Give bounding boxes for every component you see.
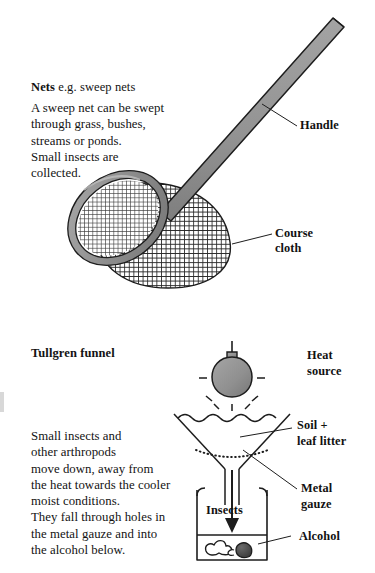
label-soil-line2: leaf litter: [297, 434, 346, 450]
heat-source-bulb: [199, 341, 265, 411]
label-metal-gauze-line2: gauze: [301, 497, 332, 513]
figure-canvas: Nets e.g. sweep nets A sweep net can be …: [0, 0, 375, 573]
label-heat-source-line2: source: [307, 364, 342, 380]
soil-surface-wave: [178, 415, 276, 422]
label-insects: Insects: [206, 503, 243, 519]
metal-gauze-dotted-arc: [196, 450, 268, 457]
tullgren-heading: Tullgren funnel: [31, 345, 115, 361]
gauze-leader-line: [243, 450, 297, 489]
alcohol-leader-line: [258, 536, 291, 544]
label-soil-line1: Soil +: [297, 418, 328, 434]
beetle-shape: [236, 543, 252, 558]
soil-leader-line: [240, 428, 292, 437]
label-metal-gauze-line1: Metal: [301, 481, 332, 497]
label-alcohol: Alcohol: [299, 529, 340, 545]
tullgren-body-text: Small insects and other arthropods move …: [31, 428, 170, 558]
label-heat-source-line1: Heat: [307, 348, 333, 364]
